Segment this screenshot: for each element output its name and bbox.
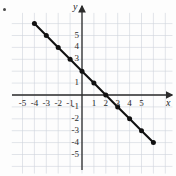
data-point — [127, 116, 132, 121]
y-tick-label: -3 — [65, 126, 79, 135]
y-tick-label: -2 — [65, 114, 79, 123]
data-layer — [0, 0, 176, 176]
y-tick-label: 5 — [65, 31, 79, 40]
data-point — [103, 93, 108, 98]
graph-figure: y x -5-4-3-2-1123455431-1-2-3-4-5 — [0, 0, 176, 176]
data-point — [56, 45, 61, 50]
data-point — [139, 128, 144, 133]
y-tick-label: 1 — [65, 78, 79, 87]
y-tick-label: 4 — [65, 42, 79, 51]
x-axis-label: x — [166, 97, 170, 108]
y-tick-label: 3 — [65, 54, 79, 63]
coordinate-plane: y x -5-4-3-2-1123455431-1-2-3-4-5 — [0, 0, 176, 176]
data-point — [151, 140, 156, 145]
data-point — [80, 69, 85, 74]
y-tick-label: -4 — [65, 138, 79, 147]
y-tick-label: -1 — [65, 102, 79, 111]
y-tick-label: -5 — [65, 150, 79, 159]
data-point — [91, 81, 96, 86]
y-axis-label: y — [73, 1, 77, 12]
x-tick-label: 5 — [135, 99, 149, 108]
data-point — [44, 33, 49, 38]
data-point — [32, 21, 37, 26]
